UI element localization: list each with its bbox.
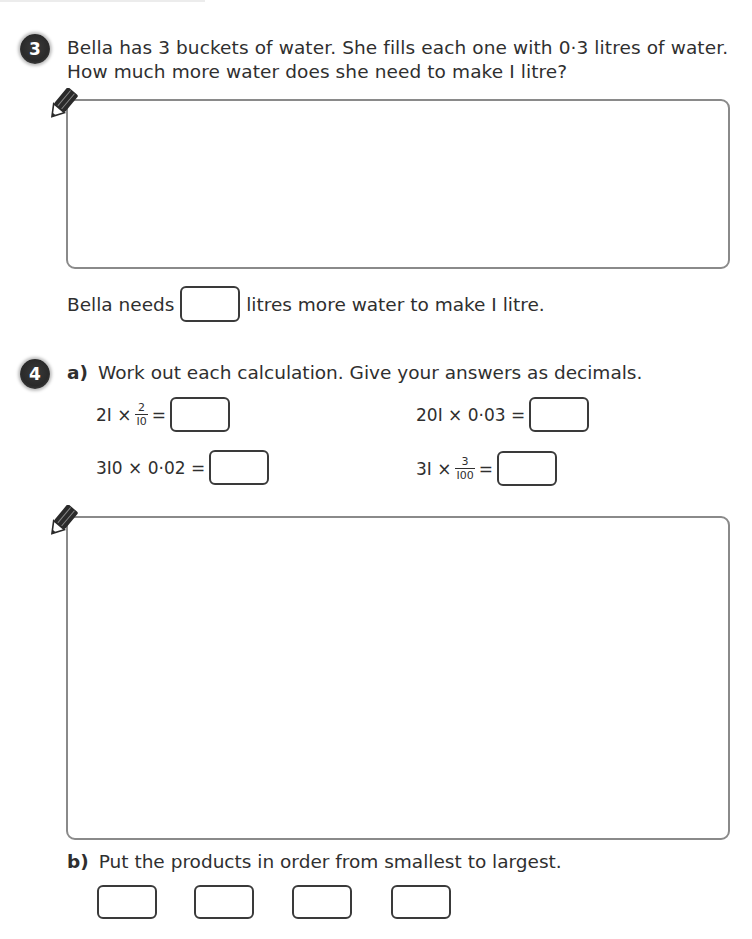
fraction-2-over-10: 2 I0 bbox=[135, 402, 147, 427]
calculation-3-expression: 3I0 × 0·02 = bbox=[96, 458, 205, 478]
order-box-4[interactable] bbox=[391, 885, 451, 919]
question-4-badge: 4 bbox=[20, 359, 50, 389]
answer-suffix: litres more water to make I litre. bbox=[240, 294, 544, 315]
calculation-1: 2I × 2 I0 = bbox=[96, 397, 230, 432]
calculation-4-expression: 3I × bbox=[416, 459, 451, 479]
calculation-2-answer-box[interactable] bbox=[529, 397, 589, 432]
pencil-icon bbox=[44, 505, 82, 539]
fraction-3-over-100: 3 I00 bbox=[455, 456, 474, 481]
page-top-rule bbox=[0, 0, 205, 2]
fraction-numerator: 2 bbox=[137, 402, 146, 413]
equals-sign: = bbox=[479, 459, 493, 479]
question-3-answer-box[interactable] bbox=[180, 286, 240, 322]
calculation-1-answer-box[interactable] bbox=[170, 397, 230, 432]
pencil-icon bbox=[44, 88, 82, 122]
question-3-working-area[interactable] bbox=[66, 99, 730, 269]
question-3-badge: 3 bbox=[20, 34, 50, 64]
fraction-denominator: I00 bbox=[455, 470, 474, 481]
equals-sign: = bbox=[152, 405, 166, 425]
question-4a-heading: a) Work out each calculation. Give your … bbox=[67, 362, 642, 383]
question-4-working-area[interactable] bbox=[66, 516, 730, 840]
question-3-line-2: How much more water does she need to mak… bbox=[67, 60, 567, 84]
calculation-4-answer-box[interactable] bbox=[497, 451, 557, 486]
question-3-answer-sentence: Bella needs litres more water to make I … bbox=[67, 286, 545, 322]
part-a-label: a) bbox=[67, 362, 88, 383]
calculation-3-answer-box[interactable] bbox=[209, 450, 269, 485]
fraction-denominator: I0 bbox=[135, 416, 147, 427]
calculation-2-expression: 20I × 0·03 = bbox=[416, 405, 525, 425]
order-box-3[interactable] bbox=[292, 885, 352, 919]
calculation-2: 20I × 0·03 = bbox=[416, 397, 589, 432]
answer-prefix: Bella needs bbox=[67, 294, 180, 315]
calculation-4: 3I × 3 I00 = bbox=[416, 451, 557, 486]
part-a-instruction: Work out each calculation. Give your ans… bbox=[98, 362, 642, 383]
part-b-instruction: Put the products in order from smallest … bbox=[99, 851, 562, 872]
fraction-numerator: 3 bbox=[461, 456, 470, 467]
calculation-1-expression: 2I × bbox=[96, 405, 131, 425]
calculation-3: 3I0 × 0·02 = bbox=[96, 450, 269, 485]
order-box-1[interactable] bbox=[97, 885, 157, 919]
part-b-label: b) bbox=[67, 851, 89, 872]
order-box-2[interactable] bbox=[194, 885, 254, 919]
question-3-line-1: Bella has 3 buckets of water. She fills … bbox=[67, 36, 728, 60]
question-4b-heading: b) Put the products in order from smalle… bbox=[67, 851, 562, 872]
